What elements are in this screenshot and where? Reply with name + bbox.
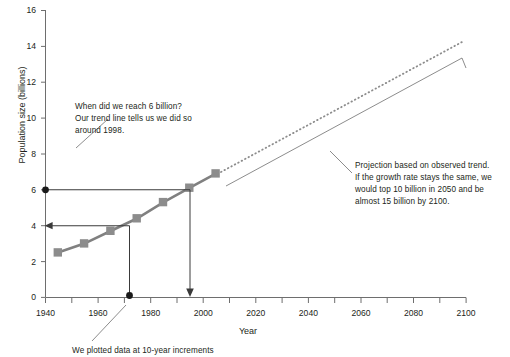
data-marker xyxy=(80,239,88,247)
data-marker xyxy=(211,169,219,177)
x-tick-label-1980: 1980 xyxy=(131,308,171,318)
x-axis-title: Year xyxy=(228,326,268,336)
x-tick-label-1940: 1940 xyxy=(26,308,66,318)
projection-line xyxy=(221,42,462,172)
riser-axis-dot-1975 xyxy=(126,292,133,299)
x-tick-label-2060: 2060 xyxy=(341,308,381,318)
axes-group xyxy=(41,10,466,303)
six-billion-guide xyxy=(42,186,194,297)
x-tick-label-2080: 2080 xyxy=(394,308,434,318)
x-tick-label-2040: 2040 xyxy=(288,308,328,318)
y-axis-ticks xyxy=(41,11,46,298)
observed-series xyxy=(54,169,220,256)
annotation-reach-6-billion: When did we reach 6 billion? Our trend l… xyxy=(75,101,250,137)
four-billion-guide xyxy=(45,222,133,299)
x-axis-ticks xyxy=(46,298,467,304)
y-axis-title: Population size (billions) xyxy=(17,49,27,181)
chart-figure: 16 14 12 10 8 6 4 2 0 1940 1960 1980 200… xyxy=(0,0,510,357)
data-marker xyxy=(106,227,114,235)
six-billion-axis-dot xyxy=(42,186,49,193)
leader-projection-note xyxy=(330,151,352,173)
y-tick-label-0: 0 xyxy=(14,292,36,302)
y-tick-label-4: 4 xyxy=(14,221,36,231)
data-marker xyxy=(185,184,193,192)
drop-arrowhead-1998 xyxy=(186,289,194,297)
data-marker xyxy=(133,214,141,222)
annotation-increments: We plotted data at 10-year increments xyxy=(72,345,302,357)
data-marker xyxy=(159,198,167,206)
x-tick-label-2000: 2000 xyxy=(183,308,223,318)
y-tick-label-16: 16 xyxy=(14,5,36,15)
y-tick-label-6: 6 xyxy=(14,185,36,195)
x-tick-label-1960: 1960 xyxy=(78,308,118,318)
data-marker xyxy=(54,248,62,256)
y-tick-label-2: 2 xyxy=(14,257,36,267)
data-markers xyxy=(54,169,220,256)
annotation-projection: Projection based on observed trend. If t… xyxy=(355,160,507,208)
x-tick-label-2100: 2100 xyxy=(446,308,486,318)
x-tick-label-2020: 2020 xyxy=(236,308,276,318)
